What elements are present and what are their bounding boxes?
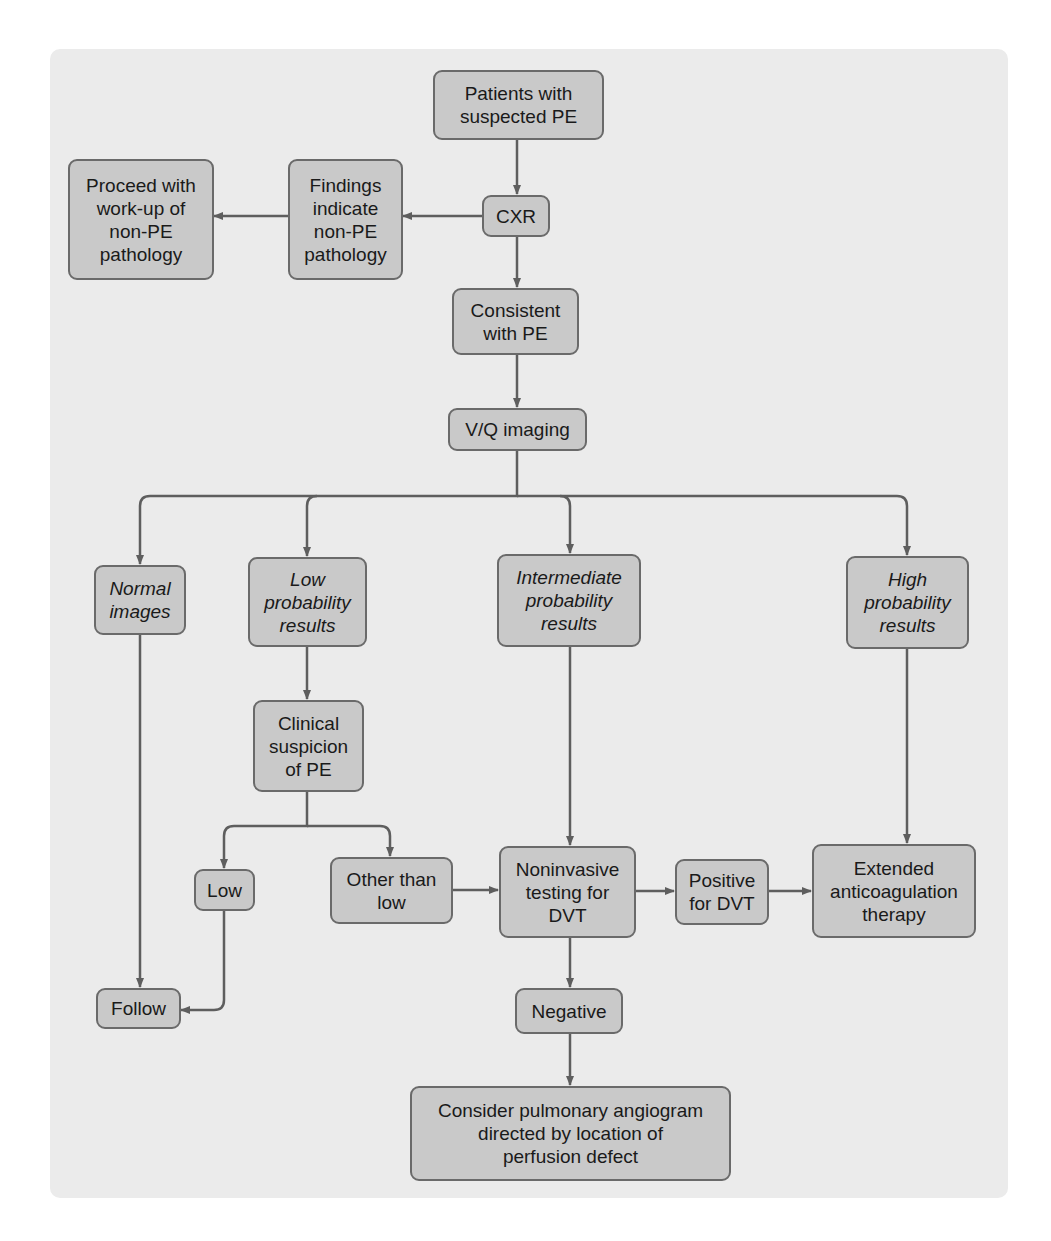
arrow-vq-low-prob [307, 496, 317, 556]
arrow-vq-intermediate [560, 496, 570, 553]
node-low-probability: Low probability results [248, 557, 367, 647]
node-high-probability: High probability results [846, 556, 969, 649]
node-findings-non-pe: Findings indicate non-PE pathology [288, 159, 403, 280]
node-vq-imaging: V/Q imaging [448, 408, 587, 451]
arrow-vq-high [517, 496, 907, 555]
node-cxr: CXR [482, 195, 550, 237]
node-clinical-suspicion: Clinical suspicion of PE [253, 700, 364, 792]
node-other-than-low: Other than low [330, 857, 453, 924]
node-positive-dvt: Positive for DVT [675, 859, 769, 925]
node-low: Low [194, 869, 255, 911]
node-extended-anticoagulation: Extended anticoagulation therapy [812, 844, 976, 938]
node-consistent-with-pe: Consistent with PE [452, 288, 579, 355]
node-follow: Follow [96, 988, 181, 1029]
node-intermediate-probability: Intermediate probability results [497, 554, 641, 647]
arrow-clinical-other [307, 826, 390, 856]
node-pulmonary-angiogram: Consider pulmonary angiogram directed by… [410, 1086, 731, 1181]
node-patients-suspected-pe: Patients with suspected PE [433, 70, 604, 140]
arrow-low-follow [181, 910, 224, 1010]
node-normal-images: Normal images [94, 565, 186, 635]
arrow-vq-normal [140, 450, 517, 564]
node-noninvasive-dvt: Noninvasive testing for DVT [499, 846, 636, 938]
node-negative: Negative [515, 988, 623, 1034]
node-proceed-non-pe-workup: Proceed with work-up of non-PE pathology [68, 159, 214, 280]
arrow-clinical-low [224, 791, 307, 868]
